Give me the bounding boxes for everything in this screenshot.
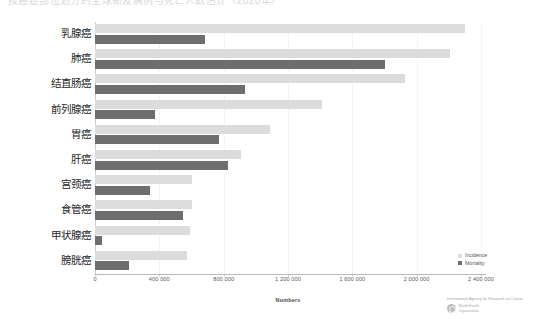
chart-legend: Incidence Mortality xyxy=(458,252,487,267)
x-gridline xyxy=(481,22,482,274)
chart-category-row: 肺癌 xyxy=(95,47,481,72)
x-tick-label: 1 200 000 xyxy=(275,276,301,282)
y-axis-category-label: 甲状腺癌 xyxy=(0,226,91,245)
bar-mortality[interactable] xyxy=(95,60,385,69)
y-axis-category-label: 肝癌 xyxy=(0,150,91,169)
bar-mortality[interactable] xyxy=(95,161,228,170)
bar-mortality[interactable] xyxy=(95,85,245,94)
legend-label-incidence: Incidence xyxy=(465,252,487,260)
bar-mortality[interactable] xyxy=(95,261,129,270)
bar-incidence[interactable] xyxy=(95,200,192,209)
legend-swatch-incidence-icon xyxy=(458,254,462,258)
y-axis-category-label: 结直肠癌 xyxy=(0,74,91,93)
x-axis-line xyxy=(95,274,486,275)
x-tick-label: 2 000 000 xyxy=(404,276,430,282)
y-axis-category-label: 胃癌 xyxy=(0,125,91,144)
chart-category-row: 结直肠癌 xyxy=(95,72,481,97)
cancer-bar-chart-figure: 乳腺癌肺癌结直肠癌前列腺癌胃癌肝癌宫颈癌食管癌甲状腺癌膀胱癌 Numbers I… xyxy=(0,9,539,319)
chart-category-row: 宫颈癌 xyxy=(95,173,481,198)
legend-swatch-mortality-icon xyxy=(458,261,462,265)
x-axis-label: Numbers xyxy=(95,297,481,303)
bar-incidence[interactable] xyxy=(95,24,465,33)
chart-category-row: 胃癌 xyxy=(95,123,481,148)
bar-incidence[interactable] xyxy=(95,150,241,159)
bar-incidence[interactable] xyxy=(95,100,322,109)
chart-category-row: 食管癌 xyxy=(95,198,481,223)
bar-incidence[interactable] xyxy=(95,49,450,58)
y-axis-category-label: 宫颈癌 xyxy=(0,175,91,194)
y-axis-category-label: 肺癌 xyxy=(0,49,91,68)
bar-mortality[interactable] xyxy=(95,35,205,44)
chart-category-row: 甲状腺癌 xyxy=(95,224,481,249)
who-logo-text: World Health Organization xyxy=(459,304,480,312)
legend-item-incidence[interactable]: Incidence xyxy=(458,252,487,260)
chart-credit: International Agency for Research on Can… xyxy=(447,297,537,313)
bar-mortality[interactable] xyxy=(95,186,150,195)
credit-agency-line: International Agency for Research on Can… xyxy=(447,297,537,302)
bar-mortality[interactable] xyxy=(95,110,155,119)
chart-category-row: 前列腺癌 xyxy=(95,98,481,123)
bar-incidence[interactable] xyxy=(95,125,270,134)
bar-mortality[interactable] xyxy=(95,211,183,220)
x-tick-label: 1 600 000 xyxy=(339,276,365,282)
truncated-header-strip: 按癌症部位划分的全球新发病例与死亡人数估计（2020年） xyxy=(0,0,539,9)
y-axis-category-label: 膀胱癌 xyxy=(0,251,91,270)
y-axis-category-label: 乳腺癌 xyxy=(0,24,91,43)
chart-category-row: 肝癌 xyxy=(95,148,481,173)
x-tick-label: 2 400 000 xyxy=(468,276,494,282)
plot-area: 乳腺癌肺癌结直肠癌前列腺癌胃癌肝癌宫颈癌食管癌甲状腺癌膀胱癌 xyxy=(95,22,481,274)
x-tick-label: 400 000 xyxy=(149,276,170,282)
who-emblem-icon xyxy=(447,304,456,313)
y-axis-category-label: 食管癌 xyxy=(0,200,91,219)
chart-category-row: 乳腺癌 xyxy=(95,22,481,47)
bar-incidence[interactable] xyxy=(95,175,192,184)
chart-category-row: 膀胱癌 xyxy=(95,249,481,274)
bar-incidence[interactable] xyxy=(95,226,190,235)
who-logo: World Health Organization xyxy=(447,304,537,313)
legend-label-mortality: Mortality xyxy=(465,260,485,268)
x-tick-label: 0 xyxy=(93,276,96,282)
who-line-2: Organization xyxy=(459,309,479,313)
x-tick-label: 800 000 xyxy=(213,276,234,282)
bar-incidence[interactable] xyxy=(95,74,405,83)
y-axis-category-label: 前列腺癌 xyxy=(0,100,91,119)
truncated-header-text: 按癌症部位划分的全球新发病例与死亡人数估计（2020年） xyxy=(8,0,281,7)
bar-mortality[interactable] xyxy=(95,135,219,144)
bar-incidence[interactable] xyxy=(95,251,187,260)
bar-mortality[interactable] xyxy=(95,236,102,245)
legend-item-mortality[interactable]: Mortality xyxy=(458,260,487,268)
